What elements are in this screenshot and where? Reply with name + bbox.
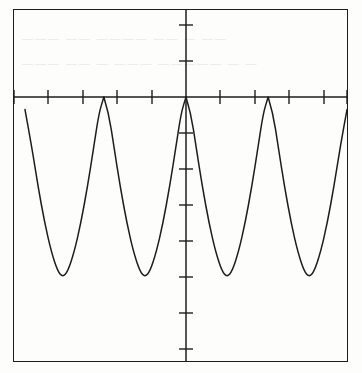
plot-canvas bbox=[0, 0, 362, 373]
graph-screenshot: ——— —— ———— —— — —— ——— —— — ——— ————— —… bbox=[0, 0, 362, 373]
